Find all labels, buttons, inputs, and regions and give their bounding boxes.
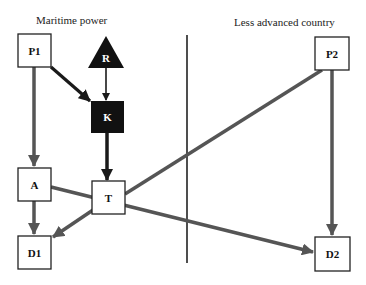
edge-t-to-p2 [125, 70, 322, 194]
node-a: A [18, 168, 51, 201]
svg-text:P1: P1 [28, 45, 40, 57]
svg-text:T: T [105, 192, 113, 204]
node-t: T [92, 181, 125, 214]
edge-p1-to-k [51, 67, 90, 101]
svg-text:K: K [103, 111, 112, 123]
svg-text:A: A [31, 179, 39, 191]
node-k: K [91, 101, 124, 133]
svg-text:R: R [102, 52, 111, 64]
flow-diagram: Maritime power Less advanced country P1 … [0, 0, 366, 285]
edge-a-to-d2 [51, 187, 313, 252]
node-d1: D1 [18, 236, 51, 269]
region-label-less-advanced-country: Less advanced country [234, 16, 335, 28]
region-label-maritime-power: Maritime power [36, 14, 108, 26]
edge-t-to-d1 [53, 210, 93, 237]
svg-text:D2: D2 [326, 248, 340, 260]
node-p1: P1 [18, 34, 51, 67]
node-p2: P2 [315, 37, 349, 70]
diagram-canvas: Maritime power Less advanced country P1 … [0, 0, 366, 285]
node-r-triangle: R [88, 36, 124, 68]
svg-text:P2: P2 [326, 48, 339, 60]
node-d2: D2 [315, 237, 350, 271]
svg-text:D1: D1 [28, 247, 41, 259]
